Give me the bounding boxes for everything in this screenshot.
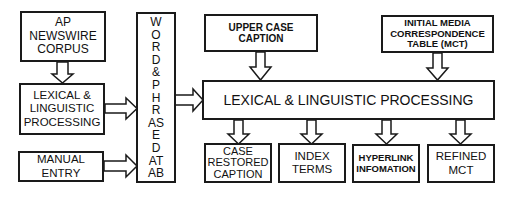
arrow-down-icon (427, 53, 448, 80)
index-terms-label: INDEX TERMS (292, 150, 332, 176)
ap-newswire-corpus-label: AP NEWSWIRE CORPUS (22, 16, 104, 57)
word-phrase-database-box: W O R D & P H R AS E D AT AB (136, 12, 176, 183)
database-letter: R (152, 104, 161, 117)
initial-mct-box: INITIAL MEDIA CORRESPONDENCE TABLE (MCT) (381, 15, 494, 53)
manual-entry-label: MANUAL ENTRY (37, 153, 85, 179)
main-lexical-processing-label: LEXICAL & LINGUISTIC PROCESSING (224, 92, 474, 108)
database-letter: D (152, 142, 161, 155)
upper-case-caption-box: UPPER CASE CAPTION (204, 14, 318, 52)
upper-case-caption-label: UPPER CASE CAPTION (228, 22, 293, 45)
ap-newswire-corpus-box: AP NEWSWIRE CORPUS (20, 11, 106, 62)
database-letter: R (152, 41, 161, 54)
arrow-right-icon (104, 155, 137, 177)
database-letter: AB (148, 167, 164, 180)
case-restored-caption-box: CASE RESTORED CAPTION (204, 143, 272, 183)
arrow-down-icon (250, 52, 271, 80)
main-lexical-processing-box: LEXICAL & LINGUISTIC PROCESSING (202, 80, 495, 120)
database-letter: W (150, 16, 161, 29)
arrow-down-icon (376, 120, 397, 144)
refined-mct-box: REFINED MCT (427, 144, 495, 183)
arrow-down-icon (450, 120, 471, 144)
arrow-down-icon (52, 62, 73, 83)
hyperlink-information-label: HYPERLINK INFOMATION (356, 153, 415, 175)
index-terms-box: INDEX TERMS (278, 143, 346, 183)
arrow-right-icon (105, 98, 137, 119)
lexical-processing-left-label: LEXICAL & LINGUISTIC PROCESSING (24, 89, 101, 129)
arrow-down-icon (228, 120, 249, 144)
initial-mct-label: INITIAL MEDIA CORRESPONDENCE TABLE (MCT) (390, 18, 485, 49)
manual-entry-box: MANUAL ENTRY (18, 151, 104, 182)
lexical-processing-left-box: LEXICAL & LINGUISTIC PROCESSING (19, 83, 105, 135)
refined-mct-label: REFINED MCT (436, 150, 486, 176)
case-restored-caption-label: CASE RESTORED CAPTION (208, 146, 269, 181)
hyperlink-information-box: HYPERLINK INFOMATION (352, 144, 420, 183)
arrow-right-icon (175, 89, 203, 111)
arrow-down-icon (301, 120, 322, 144)
database-letter: P (152, 79, 160, 92)
